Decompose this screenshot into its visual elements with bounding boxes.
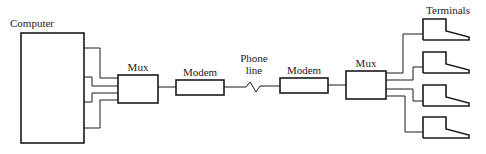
- diagram-canvas: [0, 0, 486, 154]
- modem-left-box: [176, 80, 224, 95]
- terminal-3: [423, 85, 469, 106]
- mux-right-box: [346, 71, 386, 99]
- terminals-label: Terminals: [418, 5, 478, 16]
- computer-mux-wires: [84, 48, 118, 128]
- phone-line: [224, 82, 280, 92]
- terminal-2: [423, 52, 469, 73]
- mux-terminal-wires: [386, 34, 423, 132]
- mux-right-label: Mux: [346, 58, 386, 69]
- terminal-1: [423, 19, 469, 40]
- computer-box: [21, 33, 84, 143]
- modem-right-label: Modem: [280, 65, 328, 76]
- phone-line-label-2: line: [232, 65, 276, 76]
- modem-left-label: Modem: [176, 67, 224, 78]
- computer-label: Computer: [2, 18, 62, 29]
- mux-left-label: Mux: [118, 62, 158, 73]
- modem-right-box: [280, 78, 328, 93]
- phone-line-label-1: Phone: [232, 53, 276, 64]
- mux-left-box: [118, 75, 158, 103]
- terminal-4: [423, 117, 469, 138]
